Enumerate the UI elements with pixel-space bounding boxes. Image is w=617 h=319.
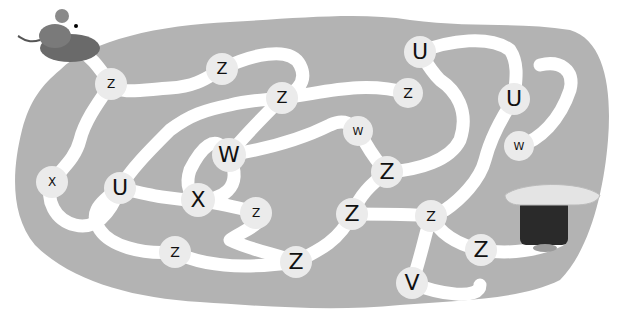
letter-node-z[interactable]: Z xyxy=(266,82,298,114)
letter-node-z[interactable]: Z xyxy=(336,198,368,230)
letter-node-z[interactable]: Z xyxy=(240,197,272,229)
letter-node-v[interactable]: V xyxy=(396,267,428,299)
letter-node-z[interactable]: Z xyxy=(206,53,238,85)
letter-node-z[interactable]: Z xyxy=(393,78,423,108)
letter-node-w[interactable]: W xyxy=(343,116,373,146)
maze-puzzle: ZZZUZUWWWZXUXZZZZZZV xyxy=(0,0,617,319)
letter-node-u[interactable]: U xyxy=(498,83,530,115)
letter-node-w[interactable]: W xyxy=(504,131,534,161)
letter-node-z[interactable]: Z xyxy=(371,156,403,188)
letter-node-z[interactable]: Z xyxy=(280,246,312,278)
letter-node-w[interactable]: W xyxy=(212,138,246,172)
letter-node-x[interactable]: X xyxy=(181,183,215,217)
mouse-start-icon xyxy=(18,9,100,62)
letter-node-u[interactable]: U xyxy=(404,36,436,68)
letter-node-x[interactable]: X xyxy=(36,166,68,198)
letter-node-z[interactable]: Z xyxy=(159,236,191,268)
letter-node-z[interactable]: Z xyxy=(95,68,127,100)
letter-node-z[interactable]: Z xyxy=(465,234,497,266)
letter-node-u[interactable]: U xyxy=(104,172,136,204)
letter-node-z[interactable]: Z xyxy=(415,200,447,232)
